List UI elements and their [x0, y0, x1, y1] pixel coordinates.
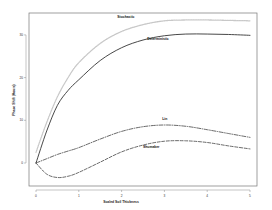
series-label-shumaker: Shumaker [143, 145, 160, 149]
series-label-stochastic: Stochastic [117, 15, 134, 19]
y-tick-label: 10 [19, 118, 23, 122]
x-axis: 012345 [35, 190, 251, 198]
x-tick-label: 1 [78, 194, 80, 198]
y-tick-label: 20 [19, 76, 23, 80]
x-tick-label: 2 [121, 194, 123, 198]
series-labels: StochasticDeterministicLinShumaker [117, 15, 169, 150]
x-axis-title: Scaled Soil Thickness [103, 200, 139, 204]
y-axis: 0102030 [19, 33, 26, 165]
plot-frame [29, 13, 257, 186]
x-tick-label: 0 [35, 194, 37, 198]
series-line-deterministic [36, 34, 250, 163]
series-label-lin: Lin [162, 117, 167, 121]
y-axis-title: Phase Shift (Hours) [12, 84, 16, 115]
series-layer [36, 20, 250, 178]
x-tick-label: 4 [206, 194, 208, 198]
y-tick-label: 30 [19, 33, 23, 37]
x-tick-label: 5 [249, 194, 251, 198]
phase-shift-chart: 012345 0102030 StochasticDeterministicLi… [0, 0, 272, 210]
x-tick-label: 3 [164, 194, 166, 198]
y-tick-label: 0 [21, 161, 23, 165]
series-label-deterministic: Deterministic [147, 37, 169, 41]
